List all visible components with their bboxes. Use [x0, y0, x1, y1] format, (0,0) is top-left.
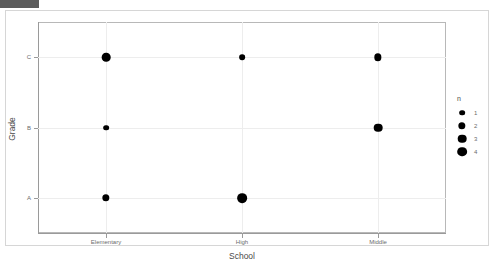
legend-items: 1234 — [455, 106, 495, 158]
legend-label: 3 — [474, 136, 477, 142]
y-axis-tick-label: C — [27, 54, 31, 60]
data-point — [237, 193, 247, 203]
legend-item: 1 — [455, 106, 495, 119]
legend-key-dot — [458, 134, 467, 143]
y-axis-tick-label: A — [27, 195, 31, 201]
legend-label: 4 — [474, 149, 477, 155]
y-axis-tick — [34, 128, 38, 129]
gridline-horizontal — [38, 128, 446, 129]
legend-item: 3 — [455, 132, 495, 145]
toolbar-stub — [0, 0, 39, 8]
data-point — [374, 123, 383, 132]
data-point — [102, 53, 111, 62]
x-axis-tick-label: High — [236, 239, 248, 245]
legend-title: n — [455, 95, 495, 102]
x-axis-tick — [242, 234, 243, 238]
x-axis-tick — [378, 234, 379, 238]
y-axis-tick — [34, 198, 38, 199]
y-axis-title: Grade — [7, 117, 17, 141]
y-axis-tick — [34, 57, 38, 58]
legend-key-dot — [459, 110, 465, 116]
y-axis-tick-label: B — [27, 125, 31, 131]
legend-item: 4 — [455, 145, 495, 158]
legend-key-dot — [458, 122, 465, 129]
x-axis-tick-label: Elementary — [91, 239, 121, 245]
legend-key-dot — [457, 147, 467, 157]
legend-item: 2 — [455, 119, 495, 132]
legend-label: 1 — [474, 110, 477, 116]
x-axis-title: School — [229, 251, 255, 259]
data-point — [103, 125, 109, 131]
x-axis-tick — [106, 234, 107, 238]
legend: n 1234 — [455, 95, 495, 158]
data-point — [239, 54, 245, 60]
legend-label: 2 — [474, 123, 477, 129]
plot-container: ABCElementaryHighMiddle School Grade n 1… — [5, 10, 489, 246]
x-axis-tick-label: Middle — [369, 239, 387, 245]
